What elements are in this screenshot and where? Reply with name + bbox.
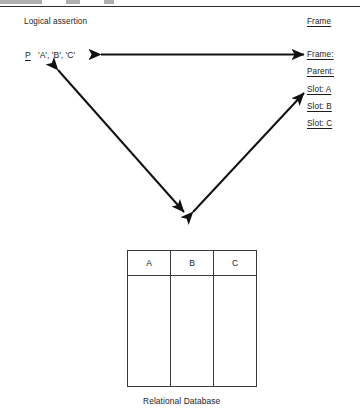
table-header-cell-a: A	[128, 251, 171, 276]
assertion-arguments: 'A', 'B', 'C'	[38, 50, 75, 60]
relational-database-caption: Relational Database	[143, 396, 220, 406]
table-header-row: A B C	[128, 251, 257, 276]
scan-artifact-left	[0, 0, 42, 4]
table-cell-c	[214, 276, 257, 387]
assertion-predicate: P	[25, 50, 31, 60]
scan-artifact-right	[104, 0, 114, 4]
assertion-database-arrow	[58, 70, 184, 212]
header-divider	[0, 6, 360, 7]
frame-field-slot-b: Slot: B	[307, 102, 332, 112]
frame-heading: Frame	[307, 17, 331, 27]
relational-database-table: A B C	[127, 250, 257, 387]
frame-field-slot-c: Slot: C	[307, 119, 332, 129]
table-cell-a	[128, 276, 171, 387]
diagram-page: Logical assertion Frame P 'A', 'B', 'C' …	[0, 0, 360, 412]
logical-assertion-heading: Logical assertion	[24, 17, 87, 27]
frame-field-frame: Frame:	[307, 50, 334, 60]
database-frame-arrow	[193, 93, 304, 212]
table-header-cell-c: C	[214, 251, 257, 276]
frame-field-parent: Parent:	[307, 67, 334, 77]
table-header-cell-b: B	[171, 251, 214, 276]
table-cell-b	[171, 276, 214, 387]
table-row	[128, 276, 257, 387]
frame-field-slot-a: Slot: A	[307, 85, 331, 95]
scan-artifact-mid	[66, 0, 80, 4]
